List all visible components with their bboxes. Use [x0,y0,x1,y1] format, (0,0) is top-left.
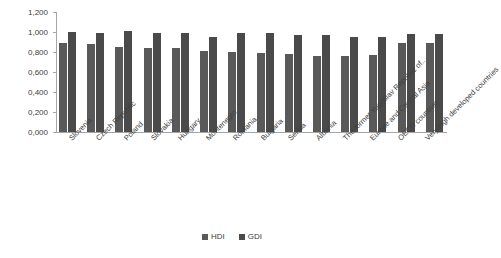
bar-group [341,12,358,132]
bar-gdi [237,33,245,132]
y-axis-tick-label: 1,000 [28,28,48,37]
bar-gdi [350,37,358,132]
legend-label: GDI [248,232,262,241]
y-axis-tick [53,132,56,133]
bar-gdi [181,33,189,132]
bar-group [144,12,161,132]
y-axis-tick-label: 0,200 [28,108,48,117]
bar-group [257,12,274,132]
legend-item: HDI [202,232,225,241]
y-axis-tick-label: 0,400 [28,88,48,97]
y-axis-tick-label: 0,600 [28,68,48,77]
bar-gdi [266,33,274,132]
bar-gdi [68,32,76,132]
bar-gdi [294,35,302,132]
legend-swatch [239,234,245,240]
bar-hdi [144,48,152,133]
bar-hdi [369,55,377,132]
legend-item: GDI [239,232,262,241]
chart-legend: HDIGDI [0,232,464,241]
bar-gdi [322,35,330,132]
bar-hdi [313,56,321,132]
bar-group [87,12,104,132]
bar-hdi [200,51,208,132]
bar-hdi [341,56,349,132]
bar-hdi [285,54,293,132]
bar-gdi [153,33,161,133]
y-axis-tick-label: 0,000 [28,128,48,137]
bar-group [172,12,189,132]
bar-group [200,12,217,132]
x-axis-labels: SloveniaCzech RepublicPolandSlovakiaHung… [56,134,447,234]
legend-swatch [202,234,208,240]
legend-label: HDI [211,232,225,241]
bar-group [313,12,330,132]
bar-hdi [59,43,67,132]
bar-group [285,12,302,132]
y-axis-tick-label: 1,200 [28,8,48,17]
y-axis-labels: 0,0000,2000,4000,6000,8001,0001,200 [0,0,52,133]
y-axis-tick-label: 0,800 [28,48,48,57]
bar-gdi [209,37,217,133]
bar-gdi [96,33,104,132]
bar-group [59,12,76,132]
x-axis-line [56,132,447,133]
